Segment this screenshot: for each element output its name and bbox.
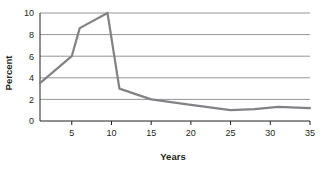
- x-tick-label-15: 15: [146, 128, 156, 138]
- series-line-0: [40, 13, 310, 110]
- x-tick-label-25: 25: [226, 128, 236, 138]
- y-tick-label-2: 2: [29, 95, 34, 105]
- data-series-line: [40, 13, 310, 110]
- gridlines: [40, 13, 310, 99]
- y-tick-label-6: 6: [29, 52, 34, 62]
- x-tick-label-10: 10: [106, 128, 116, 138]
- x-axis-ticks: [72, 121, 310, 125]
- x-axis-title: Years: [160, 151, 185, 162]
- y-tick-label-10: 10: [24, 8, 34, 18]
- y-tick-label-0: 0: [29, 116, 34, 126]
- x-axis-tick-labels: 5101520253035: [69, 128, 315, 138]
- y-tick-label-4: 4: [29, 73, 34, 83]
- chart-canvas: 5101520253035 0246810 Years Percent: [0, 0, 331, 171]
- y-axis-title: Percent: [3, 55, 14, 91]
- y-tick-label-8: 8: [29, 30, 34, 40]
- y-axis-tick-labels: 0246810: [24, 8, 34, 126]
- x-tick-label-35: 35: [305, 128, 315, 138]
- x-tick-label-30: 30: [265, 128, 275, 138]
- x-tick-label-5: 5: [69, 128, 74, 138]
- line-chart: 5101520253035 0246810 Years Percent: [0, 0, 331, 171]
- x-tick-label-20: 20: [186, 128, 196, 138]
